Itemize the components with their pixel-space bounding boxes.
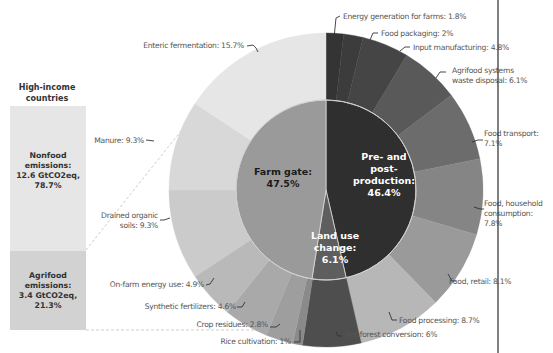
label-land-use-2: change:: [314, 242, 357, 253]
bar-title-line1: High-income: [19, 83, 76, 92]
nonfood-label-4: 78.7%: [34, 181, 61, 190]
label-energy-generation: Energy generation for farms: 1.8%: [343, 12, 466, 21]
label-household-consumption-1: Food, household: [484, 199, 543, 208]
label-synthetic-fertilizers: Synthetic fertilizers: 4.6%: [145, 302, 236, 311]
label-pre-post-2: post-: [370, 163, 398, 174]
label-drained-soils-1: Drained organic: [101, 211, 158, 220]
label-food-transport-1: Food transport:: [484, 129, 539, 138]
leader-waste-disposal: [436, 72, 446, 78]
label-enteric-fermentation: Enteric fermentation: 15.7%: [143, 41, 244, 50]
label-farm-gate-2: 47.5%: [267, 178, 300, 189]
leader-manure: [146, 140, 154, 141]
label-net-forest: Net forest conversion: 6%: [345, 330, 437, 339]
leader-food-packaging: [370, 33, 378, 40]
nested-donut-chart: High-income countries Nonfood emissions:…: [0, 0, 553, 353]
agrifood-label-1: Agrifood: [29, 271, 67, 280]
label-waste-disposal-1: Agrifood systems: [452, 66, 514, 75]
leader-drained-soils: [160, 218, 170, 220]
label-household-consumption-3: 7.8%: [484, 219, 502, 228]
agrifood-label-3: 3.4 GtCO2eq,: [19, 291, 77, 300]
label-crop-residues: Crop residues: 2.8%: [196, 320, 268, 329]
label-pre-post-4: 46.4%: [368, 187, 401, 198]
label-pre-post-3: production:: [353, 175, 415, 186]
label-food-retail: Food, retail: 8.1%: [449, 277, 511, 286]
nonfood-label-3: 12.6 GtCO2eq,: [16, 171, 80, 180]
label-household-consumption-2: consumption:: [484, 209, 533, 218]
label-land-use-1: Land use: [311, 230, 359, 241]
label-input-manufacturing: Input manufacturing: 4.8%: [413, 43, 509, 52]
agrifood-label-2: emissions:: [25, 281, 72, 290]
nonfood-label-2: emissions:: [25, 161, 72, 170]
label-on-farm-energy: On-farm energy use: 4.9%: [110, 280, 204, 289]
label-farm-gate-1: Farm gate:: [254, 166, 312, 177]
label-land-use-3: 6.1%: [322, 254, 349, 265]
agrifood-label-4: 21.3%: [34, 301, 61, 310]
nonfood-label-1: Nonfood: [29, 151, 66, 160]
label-pre-post-1: Pre- and: [361, 151, 406, 162]
label-waste-disposal-2: waste disposal: 6.1%: [452, 76, 527, 85]
label-drained-soils-2: soils: 9.3%: [120, 221, 158, 230]
leader-input-manufacturing: [400, 47, 410, 51]
label-food-transport-2: 7.1%: [484, 139, 502, 148]
label-food-processing: Food processing: 8.7%: [399, 316, 480, 325]
high-income-bar: High-income countries Nonfood emissions:…: [10, 83, 86, 330]
label-manure: Manure: 9.3%: [94, 136, 144, 145]
bar-title-line2: countries: [26, 94, 69, 103]
label-food-packaging: Food packaging: 2%: [381, 29, 453, 38]
label-rice-cultivation: Rice cultivation: 1%: [220, 337, 291, 346]
